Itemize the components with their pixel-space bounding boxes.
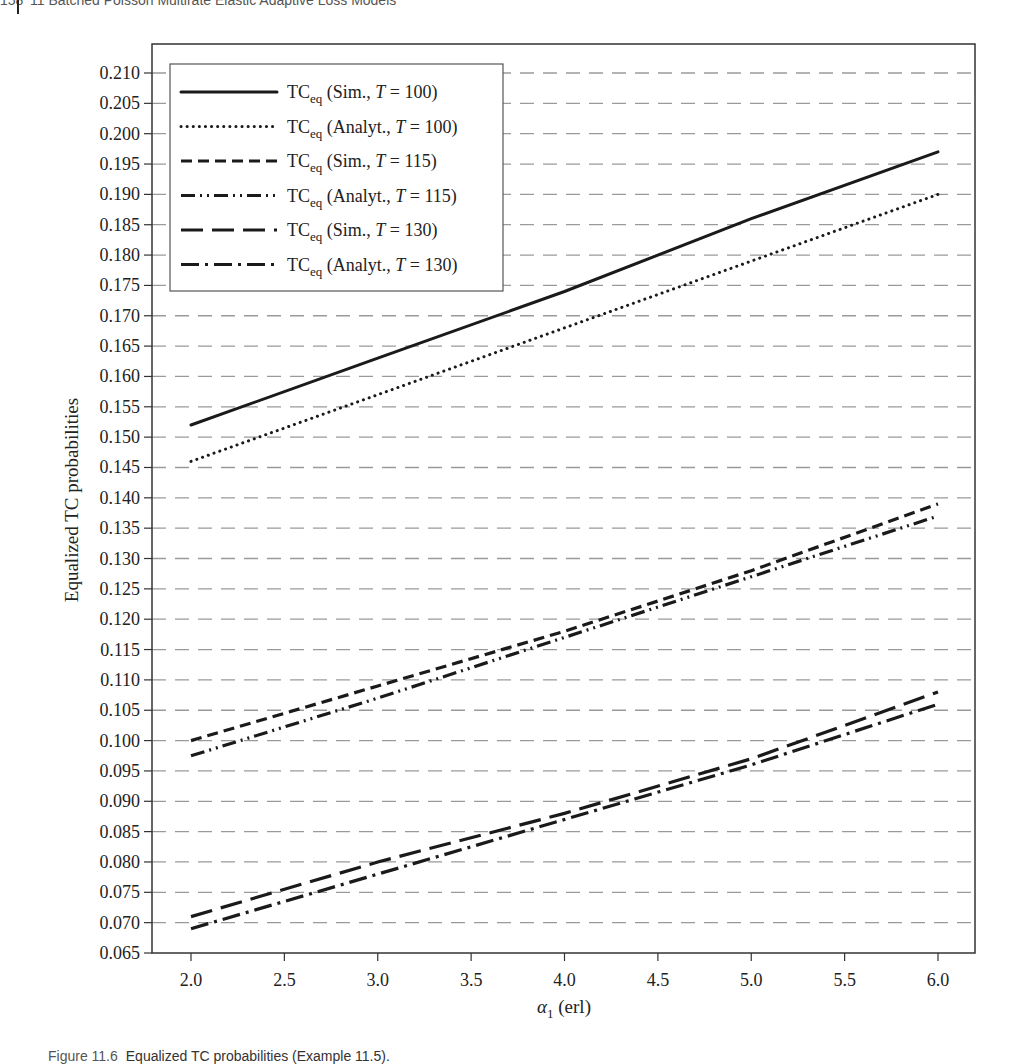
y-tick-label: 0.160 (100, 366, 141, 386)
x-tick-label: 4.5 (647, 970, 670, 990)
x-tick-label: 4.0 (553, 970, 576, 990)
x-tick-label: 5.0 (740, 970, 763, 990)
y-tick-label: 0.070 (100, 913, 141, 933)
y-tick-label: 0.065 (100, 943, 141, 963)
series-line-3 (191, 516, 938, 756)
figure-caption-text: Equalized TC probabilities (Example 11.5… (126, 1048, 390, 1064)
y-tick-label: 0.175 (100, 275, 141, 295)
series-line-5 (191, 704, 938, 929)
series-line-2 (191, 504, 938, 741)
x-axis: 2.02.53.03.54.04.55.05.56.0 (180, 953, 950, 990)
x-tick-label: 5.5 (833, 970, 856, 990)
y-axis-label: Equalized TC probabilities (61, 398, 82, 602)
y-tick-label: 0.155 (100, 397, 141, 417)
series-line-4 (191, 692, 938, 917)
y-tick-label: 0.170 (100, 306, 141, 326)
figure-caption: Figure 11.6Equalized TC probabilities (E… (48, 1048, 390, 1064)
figure-label: Figure 11.6 (48, 1048, 118, 1064)
y-tick-label: 0.135 (100, 518, 141, 538)
x-axis-label: α1 (erl) (537, 996, 591, 1021)
y-tick-label: 0.115 (100, 640, 140, 660)
y-tick-label: 0.100 (100, 731, 141, 751)
y-tick-label: 0.165 (100, 336, 141, 356)
y-tick-label: 0.195 (100, 154, 141, 174)
y-tick-label: 0.080 (100, 852, 141, 872)
y-tick-label: 0.125 (100, 579, 141, 599)
x-tick-label: 3.5 (460, 970, 483, 990)
y-tick-label: 0.180 (100, 245, 141, 265)
y-tick-label: 0.075 (100, 882, 141, 902)
y-tick-label: 0.110 (100, 670, 140, 690)
x-tick-label: 2.0 (180, 970, 203, 990)
x-tick-label: 2.5 (273, 970, 296, 990)
y-tick-label: 0.105 (100, 700, 141, 720)
y-tick-label: 0.120 (100, 609, 141, 629)
y-tick-label: 0.185 (100, 215, 141, 235)
y-tick-label: 0.150 (100, 427, 141, 447)
y-tick-label: 0.090 (100, 791, 141, 811)
x-tick-label: 6.0 (927, 970, 950, 990)
y-tick-label: 0.140 (100, 488, 141, 508)
y-tick-label: 0.085 (100, 822, 141, 842)
y-tick-label: 0.200 (100, 124, 141, 144)
x-tick-label: 3.0 (367, 970, 390, 990)
y-axis: 0.0650.0700.0750.0800.0850.0900.0950.100… (100, 63, 153, 963)
y-tick-label: 0.210 (100, 63, 141, 83)
y-tick-label: 0.190 (100, 184, 141, 204)
legend: TCeq (Sim., T = 100)TCeq (Analyt., T = 1… (170, 64, 503, 291)
y-tick-label: 0.095 (100, 761, 141, 781)
y-tick-label: 0.145 (100, 457, 141, 477)
y-tick-label: 0.130 (100, 549, 141, 569)
y-tick-label: 0.205 (100, 93, 141, 113)
